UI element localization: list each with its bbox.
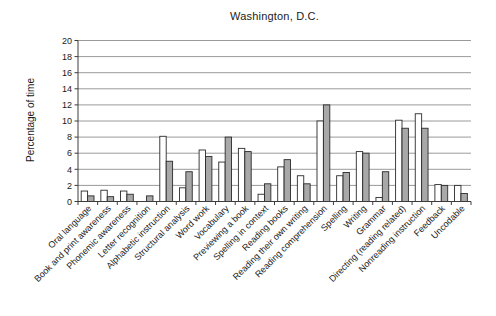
- bar-white: [396, 120, 402, 201]
- bar-gray: [323, 105, 329, 202]
- bar-gray: [264, 184, 270, 202]
- bar-gray: [225, 137, 231, 201]
- chart: Washington, D.C. Percentage of time 0246…: [0, 0, 496, 316]
- bar-white: [376, 197, 382, 201]
- bar-gray: [88, 196, 94, 202]
- y-tick-label: 16: [62, 68, 72, 78]
- bar-gray: [186, 172, 192, 202]
- bar-white: [219, 162, 225, 201]
- x-category-label: Book and print awareness: [32, 203, 113, 284]
- bar-gray: [206, 156, 212, 201]
- bar-white: [278, 167, 284, 202]
- bar-white: [415, 114, 421, 202]
- bar-white: [101, 190, 107, 201]
- bar-gray: [343, 173, 349, 202]
- bar-white: [81, 191, 87, 201]
- bar-white: [435, 185, 441, 202]
- y-tick-label: 20: [62, 36, 72, 46]
- y-tick-label: 0: [67, 197, 72, 207]
- bar-gray: [245, 152, 251, 202]
- y-tick-label: 10: [62, 116, 72, 126]
- bar-gray: [363, 153, 369, 201]
- bar-white: [337, 176, 343, 202]
- y-tick-label: 14: [62, 84, 72, 94]
- bar-gray: [304, 184, 310, 202]
- bar-gray: [402, 128, 408, 201]
- bar-gray: [127, 194, 133, 201]
- bar-white: [199, 150, 205, 202]
- y-tick-label: 8: [67, 132, 72, 142]
- bar-gray: [422, 128, 428, 201]
- bar-white: [356, 152, 362, 202]
- bar-gray: [147, 196, 153, 202]
- bar-white: [121, 191, 127, 201]
- y-tick-label: 2: [67, 181, 72, 191]
- bar-white: [455, 185, 461, 201]
- y-tick-label: 12: [62, 100, 72, 110]
- bar-gray: [382, 172, 388, 202]
- bar-gray: [441, 185, 447, 201]
- y-tick-label: 6: [67, 148, 72, 158]
- bar-gray: [107, 197, 113, 202]
- bar-gray: [284, 160, 290, 202]
- y-tick-label: 18: [62, 52, 72, 62]
- y-tick-label: 4: [67, 165, 72, 175]
- bar-white: [160, 136, 166, 201]
- bar-white: [179, 188, 185, 202]
- bar-white: [238, 148, 244, 201]
- plot-area: 02468101214161820Oral languageBook and p…: [0, 0, 496, 316]
- bar-gray: [166, 161, 172, 201]
- bar-white: [317, 121, 323, 202]
- bar-white: [297, 176, 303, 202]
- bar-white: [258, 194, 264, 201]
- bar-gray: [461, 193, 467, 201]
